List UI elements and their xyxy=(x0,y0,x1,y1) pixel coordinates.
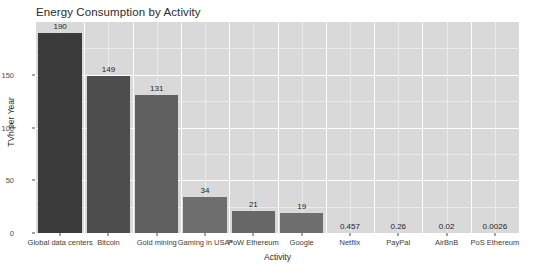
x-tick-mark xyxy=(446,233,447,236)
page-title: Energy Consumption by Activity xyxy=(36,6,201,18)
y-tick-mark xyxy=(32,74,35,75)
x-tick-mark xyxy=(253,233,254,236)
x-tick-label: Bitcoin xyxy=(97,238,120,247)
y-tick-mark xyxy=(32,180,35,181)
x-tick-label: Google xyxy=(290,238,314,247)
bar-value-label: 190 xyxy=(53,22,66,31)
x-tick-label: Global data centers xyxy=(28,238,93,247)
bar-value-label: 131 xyxy=(150,84,163,93)
y-axis-title-text: TVh per Year xyxy=(6,97,16,147)
bar-value-label: 21 xyxy=(249,200,258,209)
y-tick-label: 0 xyxy=(10,229,14,238)
bar-value-label: 0.0026 xyxy=(483,222,507,231)
x-tick-mark xyxy=(156,233,157,236)
y-tick-label: 150 xyxy=(1,70,14,79)
bar-value-label: 19 xyxy=(297,202,306,211)
y-tick-label: 100 xyxy=(1,123,14,132)
y-axis-title: TVh per Year xyxy=(4,0,18,243)
x-axis-title: Activity xyxy=(36,252,519,262)
x-tick-label: Gold mining xyxy=(137,238,177,247)
x-tick-mark xyxy=(398,233,399,236)
y-tick-label: 50 xyxy=(6,176,14,185)
x-tick-label: AirBnB xyxy=(435,238,458,247)
gridline-horizontal-minor xyxy=(36,48,519,49)
x-tick-label: PoW Ethereum xyxy=(228,238,279,247)
x-tick-mark xyxy=(205,233,206,236)
x-tick-mark xyxy=(494,233,495,236)
bar xyxy=(135,95,178,233)
chart-figure: Energy Consumption by Activity TVh per Y… xyxy=(0,0,533,276)
bar-value-label: 0.26 xyxy=(390,222,406,231)
x-tick-label: Netflix xyxy=(340,238,361,247)
x-tick-mark xyxy=(60,233,61,236)
bar xyxy=(232,211,275,233)
bar xyxy=(38,33,81,233)
bar-value-label: 149 xyxy=(102,65,115,74)
bar xyxy=(280,213,323,233)
x-tick-mark xyxy=(349,233,350,236)
y-tick-mark xyxy=(32,233,35,234)
y-tick-mark xyxy=(32,127,35,128)
bar-value-label: 34 xyxy=(201,186,210,195)
x-tick-label: PoS Ethereum xyxy=(470,238,519,247)
x-tick-label: PayPal xyxy=(386,238,410,247)
plot-panel xyxy=(36,22,519,233)
bar xyxy=(87,76,130,233)
x-tick-mark xyxy=(301,233,302,236)
x-tick-mark xyxy=(108,233,109,236)
bar-value-label: 0.457 xyxy=(340,222,360,231)
bar xyxy=(183,197,226,233)
x-tick-label: Gaming in USA* xyxy=(178,238,233,247)
bar-value-label: 0.02 xyxy=(439,222,455,231)
